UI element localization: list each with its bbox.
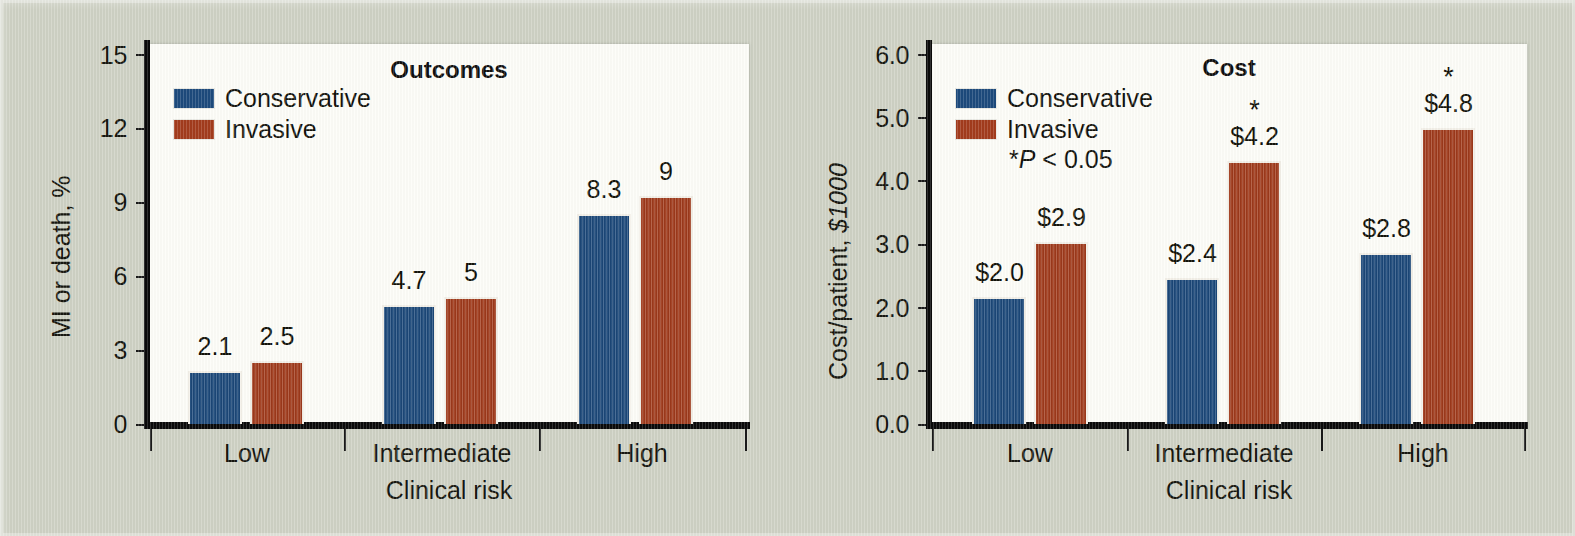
bar-conservative-high	[1359, 253, 1413, 424]
x-tick-label-intermediate: Intermediate	[1134, 440, 1314, 466]
x-category-separator	[539, 429, 541, 451]
y-tick-label: 5.0	[847, 106, 909, 131]
panel-outcomes: MI or death, % 15 12 9 6 3 0 Outcomes Co…	[0, 0, 787, 536]
bar-invasive-high	[1421, 128, 1475, 424]
y-tick-label: 3	[85, 338, 127, 363]
panel-cost: Cost/patient, $1000 6.0 5.0 4.0 3.0 2.0 …	[787, 0, 1574, 536]
x-category-separator	[1127, 429, 1129, 451]
legend-item-invasive: Invasive	[173, 115, 371, 143]
x-category-separator	[932, 429, 934, 451]
y-tick-label: 2.0	[847, 296, 909, 321]
bar-label-invasive-low: $2.9	[1014, 205, 1109, 230]
bar-label-invasive-high: 9	[626, 159, 706, 184]
legend-label-invasive: Invasive	[225, 117, 317, 142]
bar-conservative-high	[577, 214, 631, 424]
bar-invasive-high	[639, 196, 693, 424]
x-category-separator	[344, 429, 346, 451]
bar-label-conservative-high: $2.8	[1339, 216, 1434, 241]
bar-label-conservative-low: $2.0	[952, 260, 1047, 285]
legend-swatch-invasive-icon	[955, 119, 997, 140]
y-axis-line	[926, 40, 932, 428]
figure-two-panel-bar-charts: MI or death, % 15 12 9 6 3 0 Outcomes Co…	[0, 0, 1575, 536]
y-tick-label: 1.0	[847, 359, 909, 384]
bar-label-invasive-low: 2.5	[237, 324, 317, 349]
bar-conservative-intermediate	[382, 305, 436, 424]
x-axis-title-cost: Clinical risk	[931, 477, 1527, 503]
legend-swatch-conservative-icon	[173, 88, 215, 109]
bar-conservative-low	[972, 297, 1026, 424]
legend-outcomes: Conservative Invasive	[173, 84, 371, 146]
legend-item-invasive: Invasive	[955, 115, 1153, 143]
legend-swatch-invasive-icon	[173, 119, 215, 140]
bar-invasive-low	[250, 361, 304, 424]
bar-label-invasive-high: $4.8	[1401, 91, 1496, 116]
bar-invasive-intermediate	[444, 297, 498, 424]
significance-star-invasive-intermediate: *	[1207, 100, 1302, 120]
legend-label-invasive: Invasive	[1007, 117, 1099, 142]
legend-item-conservative: Conservative	[173, 84, 371, 112]
bar-invasive-intermediate	[1227, 161, 1281, 424]
bar-label-invasive-intermediate: $4.2	[1207, 124, 1302, 149]
y-tick-label: 4.0	[847, 169, 909, 194]
y-tick-label: 12	[85, 116, 127, 141]
chart-title-outcomes: Outcomes	[149, 58, 749, 82]
x-tick-label-low: Low	[177, 440, 317, 466]
x-axis-title-outcomes: Clinical risk	[149, 477, 749, 503]
y-tick-label: 6	[85, 264, 127, 289]
legend-cost: Conservative Invasive *P < 0.05	[955, 84, 1153, 172]
x-tick-label-high: High	[572, 440, 712, 466]
x-category-separator	[150, 429, 152, 451]
y-axis-title-cost: Cost/patient, $1000	[825, 163, 851, 380]
x-tick-label-intermediate: Intermediate	[352, 440, 532, 466]
x-category-separator	[1321, 429, 1323, 451]
y-tick-label: 9	[85, 190, 127, 215]
y-tick-label: 0.0	[847, 412, 909, 437]
chart-title-cost: Cost	[931, 56, 1527, 80]
bar-label-conservative-intermediate: $2.4	[1145, 241, 1240, 266]
y-tick-label: 15	[85, 43, 127, 68]
legend-item-conservative: Conservative	[955, 84, 1153, 112]
y-tick-label: 3.0	[847, 232, 909, 257]
y-tick-label: 6.0	[847, 43, 909, 68]
legend-significance-note: *P < 0.05	[1009, 147, 1153, 172]
bar-conservative-low	[188, 371, 242, 424]
x-category-separator	[1524, 429, 1526, 451]
legend-label-conservative: Conservative	[225, 86, 371, 111]
y-axis-title-outcomes: MI or death, %	[48, 175, 74, 338]
x-tick-label-high: High	[1353, 440, 1493, 466]
x-category-separator	[745, 429, 747, 451]
legend-label-conservative: Conservative	[1007, 86, 1153, 111]
y-axis-line	[144, 40, 150, 428]
bar-conservative-intermediate	[1165, 278, 1219, 424]
x-tick-label-low: Low	[960, 440, 1100, 466]
y-tick-label: 0	[85, 412, 127, 437]
legend-swatch-conservative-icon	[955, 88, 997, 109]
bar-label-invasive-intermediate: 5	[431, 260, 511, 285]
